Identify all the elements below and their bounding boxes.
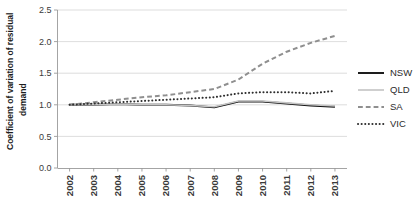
- x-tick-label: 2006: [160, 175, 171, 196]
- chart-container: 0.00.51.01.52.02.5 200220032004200520062…: [0, 0, 419, 202]
- x-tick-label: 2008: [209, 175, 220, 196]
- y-tick-label: 2.5: [39, 5, 52, 15]
- legend-label-sa: SA: [390, 101, 403, 112]
- line-chart: 0.00.51.01.52.02.5 200220032004200520062…: [0, 0, 419, 202]
- legend-label-vic: VIC: [390, 118, 406, 129]
- x-tick-label: 2003: [88, 175, 99, 196]
- x-tick-label: 2002: [64, 175, 75, 196]
- x-tick-label: 2004: [112, 174, 123, 196]
- x-tick-label: 2007: [185, 175, 196, 196]
- x-tick-label: 2010: [257, 175, 268, 196]
- y-tick-label: 0.0: [39, 163, 52, 173]
- x-tick-label: 2005: [136, 174, 147, 196]
- y-tick-label: 1.5: [39, 68, 52, 78]
- x-tick-label: 2012: [305, 175, 316, 196]
- legend-label-qld: QLD: [390, 84, 410, 95]
- x-tick-label: 2011: [281, 174, 292, 195]
- x-tick-label: 2009: [233, 175, 244, 196]
- y-tick-label: 1.0: [39, 100, 52, 110]
- y-axis-title-line2: demand: [18, 83, 28, 116]
- chart-background: [0, 0, 419, 202]
- y-tick-label: 2.0: [39, 37, 52, 47]
- x-tick-label: 2013: [329, 175, 340, 196]
- y-tick-label: 0.5: [39, 132, 52, 142]
- legend-label-nsw: NSW: [390, 67, 412, 78]
- y-axis-title-line1: Coefficient of variation of residual: [5, 13, 15, 150]
